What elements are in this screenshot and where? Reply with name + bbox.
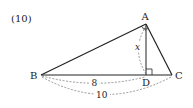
label-x: x <box>135 42 140 52</box>
triangle-figure: (10) x 8 10 A B C D <box>0 0 193 108</box>
right-angle-mark <box>146 69 152 75</box>
vertex-label-a: A <box>141 11 150 22</box>
problem-number: (10) <box>11 13 32 24</box>
vertex-label-b: B <box>30 70 37 81</box>
side-ab <box>41 24 146 75</box>
vertex-label-d: D <box>142 77 150 88</box>
side-ac <box>146 24 172 75</box>
vertex-label-c: C <box>175 70 183 81</box>
label-8: 8 <box>92 78 98 88</box>
label-10: 10 <box>96 90 108 100</box>
